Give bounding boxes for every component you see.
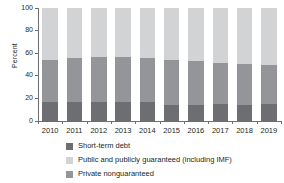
y-tick-mark (35, 53, 38, 54)
x-tick-mark (160, 121, 161, 124)
bar-segment-short-term-debt (213, 104, 229, 121)
bar-segment-public-publicly-guaranteed (164, 8, 180, 60)
x-tick-label-2014: 2014 (139, 126, 156, 135)
bar-segment-public-publicly-guaranteed (115, 8, 131, 57)
bar-2016 (188, 8, 204, 121)
y-tick-label: 0 (29, 117, 33, 124)
x-tick-mark (184, 121, 185, 124)
bar-segment-private-nonguaranteed (164, 60, 180, 105)
legend-item-label: Public and publicly guaranteed (includin… (78, 156, 232, 164)
bar-2015 (164, 8, 180, 121)
bar-segment-private-nonguaranteed (67, 58, 83, 102)
y-tick-mark (35, 8, 38, 9)
bar-segment-public-publicly-guaranteed (237, 8, 253, 64)
y-tick-label: 40 (25, 71, 33, 78)
y-axis-title: Percent (11, 21, 18, 91)
x-tick-label-2016: 2016 (188, 126, 205, 135)
y-tick-mark (35, 98, 38, 99)
bar-segment-public-publicly-guaranteed (188, 8, 204, 61)
legend-item: Short-term debt (66, 139, 281, 153)
legend-item: Public and publicly guaranteed (includin… (66, 153, 281, 167)
bar-segment-short-term-debt (42, 102, 58, 121)
y-tick-label: 100 (21, 4, 33, 11)
bar-segment-private-nonguaranteed (188, 61, 204, 106)
x-tick-mark (232, 121, 233, 124)
bar-segment-private-nonguaranteed (213, 63, 229, 104)
x-tick-label-2013: 2013 (115, 126, 132, 135)
bar-segment-private-nonguaranteed (42, 60, 58, 102)
x-tick-label-2011: 2011 (66, 126, 82, 135)
bar-segment-private-nonguaranteed (261, 65, 277, 105)
legend-swatch-icon (66, 171, 73, 178)
legend-item: Private nonguaranteed (66, 167, 281, 181)
bar-segment-short-term-debt (67, 102, 83, 121)
bar-segment-private-nonguaranteed (91, 57, 107, 102)
x-tick-mark (257, 121, 258, 124)
x-tick-label-2018: 2018 (236, 126, 253, 135)
x-tick-mark (62, 121, 63, 124)
x-tick-mark (135, 121, 136, 124)
x-tick-label-2010: 2010 (42, 126, 59, 135)
bar-segment-public-publicly-guaranteed (42, 8, 58, 60)
bar-segment-public-publicly-guaranteed (67, 8, 83, 58)
bar-segment-private-nonguaranteed (140, 58, 156, 102)
bar-2012 (91, 8, 107, 121)
bar-segment-public-publicly-guaranteed (213, 8, 229, 63)
stacked-bar-chart-figure: Percent 020406080100 2010201120122013201… (0, 0, 284, 183)
chart-legend: Short-term debtPublic and publicly guara… (66, 139, 281, 181)
bar-2013 (115, 8, 131, 121)
x-tick-label-2017: 2017 (212, 126, 229, 135)
x-tick-mark (281, 121, 282, 124)
x-tick-label-2012: 2012 (90, 126, 107, 135)
x-tick-label-2015: 2015 (163, 126, 180, 135)
x-tick-mark (38, 121, 39, 124)
bar-2010 (42, 8, 58, 121)
legend-item-label: Private nonguaranteed (78, 170, 154, 178)
legend-swatch-icon (66, 143, 73, 150)
bar-segment-public-publicly-guaranteed (140, 8, 156, 58)
bar-2018 (237, 8, 253, 121)
plot-area: 020406080100 (38, 8, 281, 121)
y-tick-mark (35, 30, 38, 31)
bar-segment-short-term-debt (115, 102, 131, 121)
bar-segment-short-term-debt (140, 102, 156, 121)
bar-segment-private-nonguaranteed (237, 64, 253, 105)
bar-segment-public-publicly-guaranteed (91, 8, 107, 57)
y-tick-label: 60 (25, 49, 33, 56)
bar-2011 (67, 8, 83, 121)
bar-segment-short-term-debt (237, 105, 253, 121)
legend-swatch-icon (66, 157, 73, 164)
bar-2017 (213, 8, 229, 121)
bar-segment-short-term-debt (261, 104, 277, 121)
bar-segment-short-term-debt (164, 105, 180, 121)
x-tick-mark (87, 121, 88, 124)
x-tick-mark (208, 121, 209, 124)
x-tick-label-2019: 2019 (261, 126, 278, 135)
legend-item-label: Short-term debt (78, 142, 130, 150)
bar-2014 (140, 8, 156, 121)
x-tick-mark (111, 121, 112, 124)
y-tick-label: 20 (25, 94, 33, 101)
y-tick-mark (35, 75, 38, 76)
bar-segment-private-nonguaranteed (115, 57, 131, 102)
bar-segment-public-publicly-guaranteed (261, 8, 277, 65)
y-tick-label: 80 (25, 26, 33, 33)
bar-2019 (261, 8, 277, 121)
bar-segment-short-term-debt (91, 102, 107, 121)
bar-segment-short-term-debt (188, 105, 204, 121)
